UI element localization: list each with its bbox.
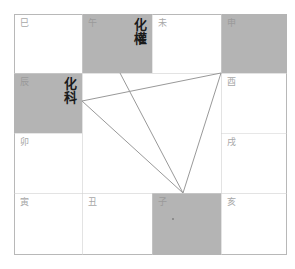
- cell-you: 酉: [221, 73, 287, 133]
- branch-label-shen: 申: [227, 18, 236, 28]
- cell-shen: 申: [221, 14, 287, 73]
- grid-divider: [14, 133, 82, 134]
- branch-label-wei: 未: [158, 18, 167, 28]
- branch-label-xu: 戌: [227, 137, 236, 147]
- cell-mao: 卯: [14, 133, 82, 193]
- cell-chou: 丑: [82, 193, 152, 255]
- grid-divider: [221, 14, 222, 255]
- transform-label-huake: 化科: [63, 77, 77, 105]
- cell-wei: 未: [152, 14, 221, 73]
- grid-divider: [152, 14, 153, 73]
- transform-label-huaquan: 化權: [133, 18, 147, 46]
- marker-dot: [172, 218, 174, 220]
- cell-yin: 寅: [14, 193, 82, 255]
- cell-xu: 戌: [221, 133, 287, 193]
- cell-hai: 亥: [221, 193, 287, 255]
- cell-zi: 子: [152, 193, 221, 255]
- grid-divider: [221, 133, 287, 134]
- grid-divider: [14, 193, 287, 194]
- branch-label-hai: 亥: [227, 197, 236, 207]
- branch-label-you: 酉: [227, 77, 236, 87]
- branch-label-si: 巳: [20, 18, 29, 28]
- branch-label-yin: 寅: [20, 197, 29, 207]
- cell-si: 巳: [14, 14, 82, 73]
- grid-divider: [152, 193, 153, 255]
- branch-label-chou: 丑: [88, 197, 97, 207]
- grid-divider: [82, 14, 83, 255]
- cell-chen: 辰 化科: [14, 73, 82, 133]
- branch-label-wu: 午: [88, 18, 97, 28]
- grid-divider: [14, 73, 287, 74]
- branch-label-zi: 子: [158, 197, 167, 207]
- branch-label-chen: 辰: [20, 77, 29, 87]
- cell-wu: 午 化權: [82, 14, 152, 73]
- branch-label-mao: 卯: [20, 137, 29, 147]
